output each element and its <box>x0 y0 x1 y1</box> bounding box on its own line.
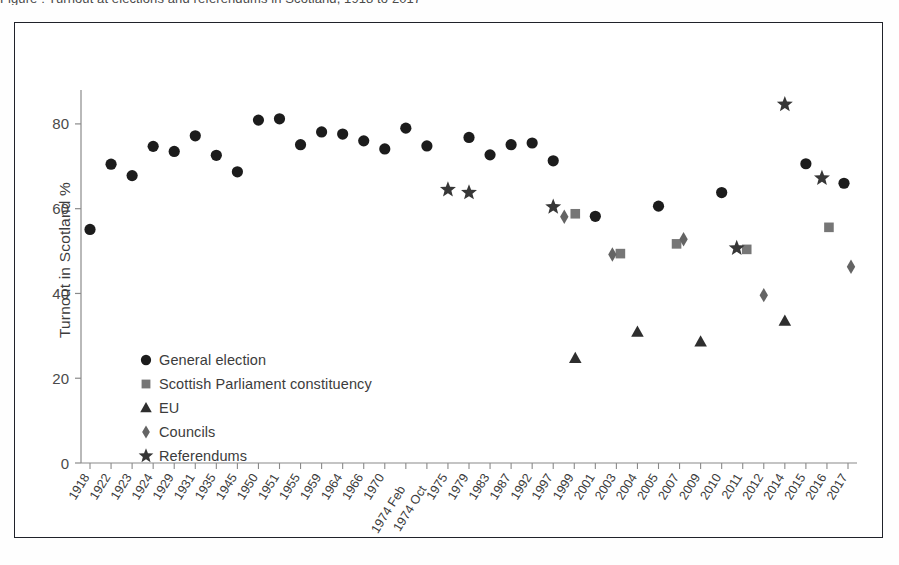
data-point <box>127 170 138 181</box>
x-tick-label: 1959 <box>297 471 324 502</box>
data-point <box>400 123 411 134</box>
y-axis-label: Turnout in Scotland % <box>56 60 74 460</box>
x-tick-label: 2001 <box>571 471 598 502</box>
x-tick-label: 2009 <box>676 471 703 502</box>
data-point <box>847 260 855 274</box>
x-tick-label: 1979 <box>445 471 472 502</box>
data-point <box>616 249 626 259</box>
data-point <box>569 352 582 363</box>
legend-item-label: EU <box>159 400 179 416</box>
legend-marker <box>142 425 150 438</box>
data-point <box>484 149 495 160</box>
x-tick-label: 2005 <box>634 471 661 502</box>
legend-marker <box>139 448 154 462</box>
page-background: Figure : Turnout at elections and refere… <box>0 0 899 565</box>
data-point <box>672 239 682 249</box>
data-point <box>379 143 390 154</box>
x-tick-label: 2012 <box>740 471 767 502</box>
data-point <box>463 132 474 143</box>
data-point <box>148 141 159 152</box>
x-tick-label: 1922 <box>87 471 114 502</box>
x-tick-label: 1983 <box>466 471 493 502</box>
chart-legend: General electionScottish Parliament cons… <box>133 348 393 468</box>
x-tick-label: 2003 <box>592 471 619 502</box>
data-point <box>545 199 561 214</box>
data-point <box>105 159 116 170</box>
legend-item-label: General election <box>159 352 266 368</box>
x-tick-label: 1975 <box>424 471 451 502</box>
x-tick-label: 1987 <box>487 471 514 502</box>
data-point <box>337 128 348 139</box>
data-point <box>527 137 538 148</box>
data-point <box>232 166 243 177</box>
legend-marker <box>142 380 151 389</box>
data-point <box>608 247 616 261</box>
legend-marker <box>141 355 151 365</box>
data-point <box>560 210 568 224</box>
x-tick-label: 1931 <box>171 471 198 502</box>
x-tick-label: 2007 <box>655 471 682 502</box>
data-point <box>274 113 285 124</box>
data-point <box>84 224 95 235</box>
x-tick-label: 1964 <box>318 471 345 502</box>
x-tick-label: 1966 <box>340 471 367 502</box>
legend-marker <box>140 402 152 412</box>
data-point <box>570 209 580 219</box>
legend-item-diamond[interactable]: Councils <box>133 420 393 444</box>
legend-item-label: Scottish Parliament constituency <box>159 376 372 392</box>
x-tick-label: 1929 <box>150 471 177 502</box>
figure-caption-clipped: Figure : Turnout at elections and refere… <box>0 0 899 5</box>
circle-icon <box>133 349 159 371</box>
data-point <box>440 181 456 196</box>
x-tick-label: 1918 <box>66 471 93 502</box>
data-point <box>814 170 830 185</box>
x-tick-label: 1997 <box>529 471 556 502</box>
square-icon <box>133 373 159 395</box>
data-point <box>824 223 834 233</box>
x-tick-label: 2004 <box>613 471 640 502</box>
data-point <box>548 155 559 166</box>
data-point <box>779 314 792 325</box>
legend-item-label: Councils <box>159 424 215 440</box>
figure-frame: 020406080 191819221923192419291931193519… <box>14 22 883 538</box>
data-point <box>421 140 432 151</box>
star-icon <box>133 445 159 467</box>
x-tick-label: 1924 <box>129 471 156 502</box>
x-tick-label: 1935 <box>192 471 219 502</box>
data-point <box>506 139 517 150</box>
data-point <box>760 288 768 302</box>
data-point <box>211 150 222 161</box>
data-point <box>190 130 201 141</box>
x-tick-label: 1955 <box>276 471 303 502</box>
legend-item-square[interactable]: Scottish Parliament constituency <box>133 372 393 396</box>
x-tick-label: 2015 <box>782 471 809 502</box>
x-tick-label: 2016 <box>803 471 830 502</box>
x-tick-label: 2014 <box>761 471 788 502</box>
x-tick-label: 2017 <box>824 471 851 502</box>
data-point <box>631 325 644 336</box>
x-tick-label: 1923 <box>108 471 135 502</box>
data-point <box>716 187 727 198</box>
data-point <box>358 135 369 146</box>
x-tick-labels: 1918192219231924192919311935194519501951… <box>66 471 851 536</box>
legend-item-label: Referendums <box>159 448 247 464</box>
data-point <box>316 126 327 137</box>
data-point <box>169 146 180 157</box>
x-tick-label: 1992 <box>508 471 535 502</box>
x-tick-label: 1945 <box>213 471 240 502</box>
diamond-icon <box>133 421 159 443</box>
triangle-icon <box>133 397 159 419</box>
data-point <box>461 184 477 199</box>
x-tick-label: 1951 <box>255 471 282 502</box>
data-point <box>253 114 264 125</box>
x-tick-label: 1999 <box>550 471 577 502</box>
x-tick-label: 1970 <box>361 471 388 502</box>
legend-item-triangle[interactable]: EU <box>133 396 393 420</box>
legend-item-circle[interactable]: General election <box>133 348 393 372</box>
data-point <box>777 96 793 111</box>
data-point <box>295 139 306 150</box>
data-point <box>590 211 601 222</box>
legend-item-star[interactable]: Referendums <box>133 444 393 468</box>
x-tick-label: 1950 <box>234 471 261 502</box>
markers-layer <box>84 96 855 363</box>
